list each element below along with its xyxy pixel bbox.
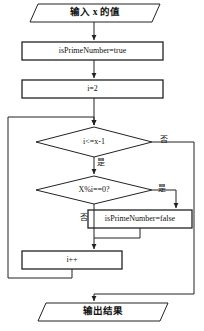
- edge-increment-loopback: [8, 117, 94, 278]
- edge-label-loop-yes: 是: [97, 159, 105, 167]
- node-set-false-shape: [88, 210, 192, 228]
- edge-set-false-to-junction: [94, 228, 140, 238]
- edge-label-mod-yes: 是: [158, 185, 166, 193]
- node-input-shape: [30, 4, 160, 22]
- flowchart-canvas: 输入 x 的值 isPrimeNumber=true i=2 i<=x-1 X%…: [0, 0, 204, 331]
- edge-label-loop-no: 否: [160, 136, 168, 144]
- node-init-flag-shape: [22, 42, 163, 60]
- node-init-i-shape: [22, 80, 163, 98]
- node-mod-cond-shape: [36, 176, 152, 204]
- node-output-shape: [38, 303, 168, 321]
- node-loop-cond-shape: [36, 127, 152, 157]
- node-increment-shape: [22, 251, 122, 269]
- edge-loop-cond-no-to-output: [94, 142, 194, 294]
- edge-label-mod-no: 否: [80, 214, 88, 222]
